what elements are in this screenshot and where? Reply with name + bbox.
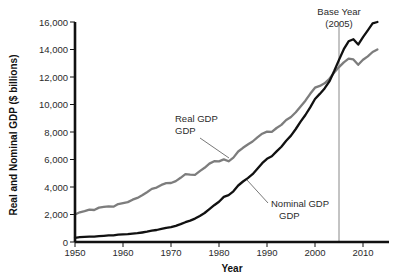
- series-label-nominal-gdp-line2: GDP: [279, 210, 300, 221]
- y-tick-label: 0: [63, 237, 68, 248]
- y-tick-label: 4,000: [44, 182, 68, 193]
- base-year-label-line2: (2005): [325, 18, 352, 29]
- series-label-nominal-gdp-line1: Nominal GDP: [271, 198, 329, 209]
- base-year-label-line1: Base Year: [317, 6, 360, 17]
- x-axis-title: Year: [221, 263, 242, 274]
- y-tick-label: 10,000: [39, 99, 68, 110]
- x-tick-label: 1990: [256, 247, 277, 258]
- y-tick-label: 14,000: [39, 44, 68, 55]
- x-tick-labels: 1950 1960 1970 1980 1990 2000 2010: [64, 247, 373, 258]
- series-nominal-gdp: [75, 22, 377, 238]
- x-tick-label: 2010: [352, 247, 373, 258]
- y-tick-label: 6,000: [44, 154, 68, 165]
- x-tick-label: 1970: [160, 247, 181, 258]
- chart-canvas: Real and Nominal GDP ($ billions) 16,000…: [0, 0, 394, 280]
- y-tick-label: 16,000: [39, 17, 68, 28]
- leader-line-nominal-gdp: [247, 180, 268, 203]
- x-tick-label: 1950: [64, 247, 85, 258]
- gdp-line-chart: Real and Nominal GDP ($ billions) 16,000…: [0, 0, 394, 280]
- y-axis-title: Real and Nominal GDP ($ billions): [8, 55, 19, 216]
- series-label-real-gdp-line1: Real GDP: [175, 113, 218, 124]
- y-tick-labels: 16,000 14,000 12,000 10,000 8,000 6,000 …: [39, 17, 68, 248]
- x-tick-label: 1960: [112, 247, 133, 258]
- y-tick-label: 12,000: [39, 72, 68, 83]
- y-tick-label: 2,000: [44, 209, 68, 220]
- x-tick-label: 2000: [304, 247, 325, 258]
- x-tick-label: 1980: [208, 247, 229, 258]
- y-tick-label: 8,000: [44, 127, 68, 138]
- leader-line-real-gdp: [200, 138, 229, 158]
- series-label-real-gdp-line2: GDP: [175, 125, 196, 136]
